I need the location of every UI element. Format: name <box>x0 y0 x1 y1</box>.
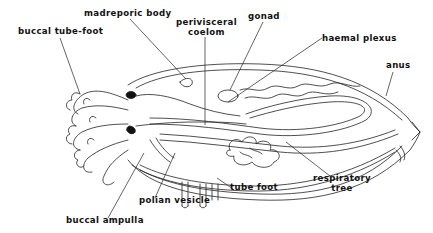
label-perivisceral-coelom: perivisceral coelom <box>176 17 237 37</box>
polian-vesicle-shape <box>150 140 170 162</box>
buccal-ampulla-blob-lower <box>125 125 136 136</box>
respiratory-tree-shape <box>227 137 280 167</box>
label-gonad: gonad <box>248 11 280 21</box>
leader-anus <box>386 72 393 96</box>
label-tube-foot: tube foot <box>230 182 278 192</box>
label-anus: anus <box>386 60 411 70</box>
label-polian-vesicle: polian vesicle <box>139 195 210 205</box>
anatomy-diagram: madreporic body buccal tube-foot perivis… <box>0 0 433 233</box>
buccal-ampulla-blob-upper <box>126 92 136 99</box>
label-buccal-ampulla: buccal ampulla <box>66 215 144 225</box>
madreporic-shape <box>180 78 192 86</box>
label-haemal-plexus: haemal plexus <box>322 33 397 43</box>
label-madreporic-body: madreporic body <box>84 8 171 18</box>
leader-buccal-tube-foot <box>60 38 80 94</box>
haemal-plexus-vessels <box>240 83 360 90</box>
leader-polian-vesicle <box>155 153 175 198</box>
label-buccal-tube-foot: buccal tube-foot <box>18 26 103 36</box>
label-respiratory-tree: respiratory tree <box>313 173 371 193</box>
leader-buccal-ampulla <box>108 153 144 218</box>
buccal-tentacles <box>66 91 128 185</box>
gonad-shape <box>218 90 238 102</box>
